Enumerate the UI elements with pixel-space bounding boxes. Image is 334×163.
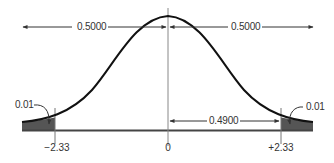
middle-area-label: 0.4900 bbox=[209, 115, 238, 126]
left-half-label: 0.5000 bbox=[77, 21, 106, 32]
tick-left-critical: −2.33 bbox=[44, 142, 69, 153]
tick-center: 0 bbox=[165, 142, 171, 153]
normal-curve-diagram bbox=[0, 0, 334, 163]
right-tail-label: 0.01 bbox=[306, 101, 325, 112]
tick-right-critical: +2.33 bbox=[268, 142, 293, 153]
right-half-label: 0.5000 bbox=[231, 21, 260, 32]
left-tail-label: 0.01 bbox=[15, 99, 34, 110]
